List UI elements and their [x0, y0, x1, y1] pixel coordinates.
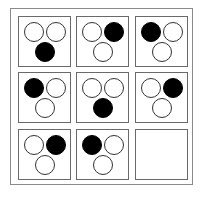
empty-circle-icon	[152, 98, 172, 118]
empty-circle-icon	[152, 42, 172, 62]
puzzle-cell	[18, 129, 71, 180]
filled-circle-icon	[104, 22, 124, 42]
puzzle-cell	[135, 72, 188, 123]
puzzle-cell	[76, 16, 129, 67]
empty-circle-icon	[104, 78, 124, 98]
filled-circle-icon	[46, 135, 66, 155]
empty-circle-icon	[104, 135, 124, 155]
puzzle-cell	[76, 72, 129, 123]
empty-circle-icon	[24, 22, 44, 42]
empty-circle-icon	[82, 22, 102, 42]
filled-circle-icon	[141, 22, 161, 42]
filled-circle-icon	[82, 135, 102, 155]
empty-circle-icon	[141, 78, 161, 98]
empty-circle-icon	[35, 155, 55, 175]
empty-circle-icon	[46, 22, 66, 42]
filled-circle-icon	[35, 42, 55, 62]
puzzle-cell	[76, 129, 129, 180]
empty-circle-icon	[93, 155, 113, 175]
filled-circle-icon	[163, 78, 183, 98]
puzzle-cell	[18, 72, 71, 123]
empty-circle-icon	[35, 98, 55, 118]
empty-circle-icon	[82, 78, 102, 98]
answer-cell-blank	[135, 129, 188, 180]
empty-circle-icon	[163, 22, 183, 42]
filled-circle-icon	[93, 98, 113, 118]
empty-circle-icon	[24, 135, 44, 155]
empty-circle-icon	[93, 42, 113, 62]
puzzle-cell	[18, 16, 71, 67]
puzzle-cell	[135, 16, 188, 67]
empty-circle-icon	[46, 78, 66, 98]
filled-circle-icon	[24, 78, 44, 98]
